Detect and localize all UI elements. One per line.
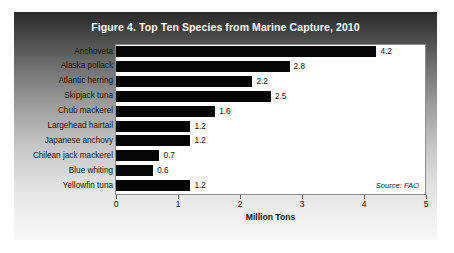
x-axis-tick-label: 1 (176, 199, 181, 209)
bar-value-label: 1.2 (194, 135, 205, 146)
x-axis-tick-label: 3 (300, 199, 305, 209)
bars-layer: 4.22.82.22.51.61.21.20.70.61.2 (116, 44, 426, 195)
bar (116, 61, 290, 72)
figure-card: Figure 4. Top Ten Species from Marine Ca… (14, 12, 437, 240)
bar-value-label: 2.8 (294, 61, 305, 72)
category-label: Chilean jack mackerel (14, 152, 113, 160)
bar (116, 165, 153, 176)
bar-value-label: 1.6 (219, 106, 230, 117)
category-label: Alaska pollack (14, 62, 113, 70)
category-label: Chub mackerel (14, 107, 113, 115)
bar (116, 135, 190, 146)
x-axis-tick-label: 5 (424, 199, 429, 209)
category-label: Yellowfin tuna (14, 182, 113, 190)
category-label: Japanese anchovy (14, 137, 113, 145)
x-axis-title: Million Tons (115, 212, 426, 222)
bar (116, 91, 271, 102)
figure-title: Figure 4. Top Ten Species from Marine Ca… (14, 21, 437, 33)
bar-value-label: 4.2 (380, 46, 391, 57)
bar (116, 76, 252, 87)
category-axis: AnchovetaAlaska pollackAtlantic herringS… (14, 44, 113, 195)
figure-root: Figure 4. Top Ten Species from Marine Ca… (0, 0, 454, 253)
bar (116, 106, 215, 117)
category-label: Anchoveta (14, 48, 113, 56)
bar (116, 121, 190, 132)
bar-value-label: 0.7 (163, 150, 174, 161)
category-label: Atlantic herring (14, 77, 113, 85)
bar-value-label: 2.5 (275, 91, 286, 102)
x-axis-tick-label: 4 (362, 199, 367, 209)
bar-value-label: 0.6 (157, 165, 168, 176)
category-label: Skipjack tuna (14, 92, 113, 100)
category-label: Largehead hairtail (14, 122, 113, 130)
bar (116, 46, 376, 57)
x-axis-tick-label: 0 (114, 199, 119, 209)
bar-value-label: 2.2 (256, 76, 267, 87)
bar (116, 180, 190, 191)
x-axis-tick-label: 2 (238, 199, 243, 209)
bar-value-label: 1.2 (194, 180, 205, 191)
category-label: Blue whiting (14, 167, 113, 175)
bar-value-label: 1.2 (194, 121, 205, 132)
bar (116, 150, 159, 161)
